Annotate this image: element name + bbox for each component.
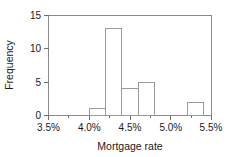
x-tick-label-4.0: 4.0% [78, 122, 101, 133]
y-axis-title: Frequency [3, 39, 15, 89]
bar-bin-4.4-4.6 [122, 89, 138, 116]
y-tick-label-10: 10 [30, 43, 42, 54]
y-tick-label-0: 0 [35, 110, 41, 121]
bar-bin-4.2-4.4 [106, 29, 122, 116]
bar-bin-4.0-4.2 [89, 109, 105, 116]
histogram-chart: 15 10 5 0 Frequency [0, 0, 230, 157]
x-tick-label-5.0: 5.0% [159, 122, 182, 133]
x-axis-title: Mortgage rate [97, 140, 163, 152]
y-tick-label-5: 5 [35, 77, 41, 88]
x-tick-label-3.5: 3.5% [37, 122, 60, 133]
bar-bin-4.6-4.8 [138, 82, 154, 115]
x-tick-label-5.5: 5.5% [200, 122, 223, 133]
histogram-svg: 15 10 5 0 Frequency [0, 0, 230, 157]
bar-bin-5.2-5.4 [187, 102, 203, 115]
x-tick-label-4.5: 4.5% [119, 122, 142, 133]
y-tick-label-15: 15 [30, 10, 42, 21]
